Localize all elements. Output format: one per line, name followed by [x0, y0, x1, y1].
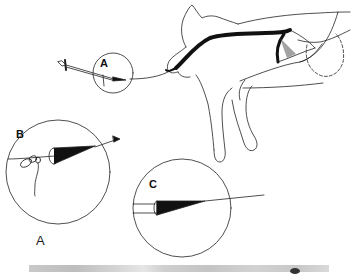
airway-tube: [166, 30, 315, 71]
photo-dark-spot: [290, 268, 300, 274]
panel-label: A: [36, 233, 45, 248]
callout-label-a: A: [100, 57, 108, 69]
callout-label-b: B: [16, 128, 24, 140]
catheter-line: [130, 70, 172, 79]
callout-a: [58, 53, 133, 93]
photo-strip: [29, 265, 329, 272]
cat-outline: [167, 5, 350, 162]
callout-c: [133, 159, 264, 257]
callout-label-c: C: [149, 178, 157, 190]
